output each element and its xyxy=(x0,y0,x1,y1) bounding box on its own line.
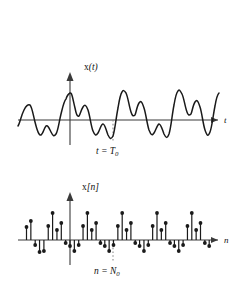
bottom-period-marker-label: n = N0 xyxy=(94,266,120,277)
bottom-y-axis-label-arg: [n] xyxy=(87,182,99,192)
stem-marker xyxy=(107,249,111,253)
stem-marker xyxy=(155,211,159,215)
stem-marker xyxy=(168,241,172,245)
stem-marker xyxy=(38,250,42,254)
bottom-x-axis-label: n xyxy=(224,235,229,245)
bottom-period-marker-text: n = N xyxy=(94,266,117,276)
stem-marker xyxy=(46,224,50,228)
stem-marker xyxy=(190,211,194,215)
stem-marker xyxy=(68,244,72,248)
stem-marker xyxy=(112,243,116,247)
stem-marker xyxy=(177,249,181,253)
bottom-plot-group xyxy=(18,192,218,265)
stem-marker xyxy=(133,241,137,245)
top-y-axis-label-arg: (t) xyxy=(89,62,98,73)
stem-marker xyxy=(129,221,133,225)
stem-collection xyxy=(25,211,212,254)
stem-marker xyxy=(29,219,33,223)
stem-marker xyxy=(159,228,163,232)
stem-marker xyxy=(186,224,190,228)
stem-marker xyxy=(103,244,107,248)
stem-marker xyxy=(90,228,94,232)
top-x-axis-label: t xyxy=(224,115,227,125)
top-period-marker-text: t = T xyxy=(96,146,116,156)
top-vertical-axis-arrow-icon xyxy=(67,72,74,81)
figure-container: x(t) t t = T0 x[n] n n = N0 xyxy=(0,0,238,284)
stem-marker xyxy=(138,244,142,248)
stem-marker xyxy=(25,225,29,229)
stem-marker xyxy=(116,224,120,228)
top-period-marker-label: t = T0 xyxy=(96,146,119,157)
stem-marker xyxy=(151,224,155,228)
stem-marker xyxy=(120,211,124,215)
stem-marker xyxy=(146,243,150,247)
stem-marker xyxy=(203,241,207,245)
stem-marker xyxy=(77,243,81,247)
bottom-vertical-axis-arrow-icon xyxy=(67,192,74,201)
stem-marker xyxy=(199,221,203,225)
top-plot-group xyxy=(18,72,219,145)
stem-marker xyxy=(207,244,211,248)
stem-marker xyxy=(125,228,129,232)
continuous-waveform-path xyxy=(18,90,219,139)
stem-marker xyxy=(194,228,198,232)
stem-marker xyxy=(181,243,185,247)
top-period-marker-subscript: 0 xyxy=(115,150,119,157)
bottom-y-axis-label: x[n] xyxy=(82,182,99,192)
signals-figure-svg: x(t) t t = T0 x[n] n n = N0 xyxy=(0,0,238,284)
stem-marker xyxy=(94,221,98,225)
stem-marker xyxy=(33,243,37,247)
bottom-period-marker-subscript: 0 xyxy=(116,270,120,277)
stem-marker xyxy=(59,221,63,225)
stem-marker xyxy=(81,224,85,228)
stem-marker xyxy=(142,249,146,253)
stem-marker xyxy=(64,241,68,245)
stem-marker xyxy=(164,221,168,225)
bottom-horizontal-axis-arrow-icon xyxy=(211,237,218,243)
stem-marker xyxy=(51,211,55,215)
stem-marker xyxy=(99,241,103,245)
stem-marker xyxy=(86,211,90,215)
top-y-axis-label: x(t) xyxy=(84,62,98,73)
stem-marker xyxy=(72,249,76,253)
stem-marker xyxy=(55,228,59,232)
stem-marker xyxy=(42,249,46,253)
stem-marker xyxy=(173,244,177,248)
